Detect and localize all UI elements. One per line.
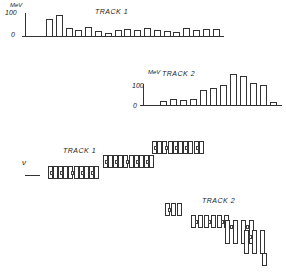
- detector-cell: [225, 220, 230, 244]
- detector-cell: [260, 230, 265, 254]
- histogram-bar: [85, 27, 92, 36]
- histogram-bar: [56, 15, 63, 36]
- histogram-bar: [105, 33, 112, 36]
- histogram-bar: [160, 101, 167, 105]
- detector-hit: [196, 146, 199, 150]
- histogram-bar: [95, 31, 102, 36]
- histogram-bar: [183, 28, 190, 36]
- histogram-bar: [260, 85, 267, 105]
- histogram-bar: [210, 88, 217, 105]
- detector-hit: [136, 160, 139, 164]
- detector-hit: [91, 171, 94, 175]
- track1-tick-0: 0: [11, 31, 15, 38]
- detector-hit: [246, 225, 249, 229]
- detector-cell: [149, 155, 154, 168]
- detector-hit: [71, 171, 74, 175]
- detector-cell: [244, 230, 249, 254]
- detector-hit: [208, 220, 211, 224]
- histogram-bar: [144, 28, 151, 36]
- track2-y-axis: [143, 84, 144, 106]
- histogram-bar: [66, 28, 73, 36]
- detector-hit: [165, 146, 168, 150]
- detector-cell: [177, 203, 182, 216]
- detector-hit: [146, 160, 149, 164]
- histogram-bar: [240, 76, 247, 105]
- detector-hit: [50, 171, 53, 175]
- detector-cell: [198, 215, 203, 228]
- detector-hit: [105, 160, 108, 164]
- track1-cells-title: TRACK 1: [63, 147, 96, 154]
- histogram-bar: [200, 90, 207, 105]
- detector-cell: [171, 203, 176, 216]
- histogram-bar: [134, 30, 141, 36]
- detector-hit: [126, 160, 129, 164]
- histogram-bar: [170, 99, 177, 105]
- detector-hit: [249, 235, 252, 239]
- histogram-bar: [124, 29, 131, 36]
- detector-hit: [185, 146, 188, 150]
- histogram-bar: [115, 30, 122, 36]
- detector-hit: [230, 225, 233, 229]
- track1-unit-label: MeV: [10, 2, 22, 8]
- histogram-bar: [164, 31, 171, 36]
- detector-hit: [115, 160, 118, 164]
- beam-label: ν: [22, 158, 26, 167]
- track1-title: TRACK 1: [95, 8, 128, 15]
- histogram-bar: [193, 30, 200, 36]
- detector-hit: [154, 146, 157, 150]
- detector-hit: [221, 220, 224, 224]
- track2-tick-100: 100: [132, 82, 144, 89]
- track2-unit-label: MeV: [148, 69, 160, 75]
- histogram-bar: [220, 85, 227, 105]
- detector-cell: [211, 215, 216, 228]
- track2-tick-0: 0: [133, 102, 137, 109]
- detector-cell: [94, 166, 99, 179]
- histogram-bar: [75, 30, 82, 36]
- histogram-bar: [190, 99, 197, 105]
- track2-x-axis: [140, 105, 282, 106]
- histogram-bar: [270, 102, 277, 105]
- detector-hit: [60, 171, 63, 175]
- track1-x-axis: [22, 36, 224, 37]
- detector-hit: [195, 220, 198, 224]
- beam-arrow-icon: [25, 175, 40, 176]
- histogram-bar: [213, 29, 220, 36]
- histogram-bar: [180, 100, 187, 105]
- track1-tick-100: 100: [5, 9, 17, 16]
- detector-hit: [81, 171, 84, 175]
- detector-hit: [175, 146, 178, 150]
- track1-y-axis: [25, 13, 26, 36]
- histogram-bar: [46, 19, 53, 36]
- detector-hit: [168, 208, 171, 212]
- histogram-bar: [250, 83, 257, 105]
- detector-cell: [252, 230, 257, 254]
- detector-cell: [262, 253, 267, 266]
- histogram-bar: [154, 30, 161, 36]
- detector-cell: [233, 220, 238, 244]
- histogram-bar: [230, 74, 237, 105]
- histogram-bar: [173, 32, 180, 36]
- histogram-bar: [203, 29, 210, 36]
- detector-cell: [199, 141, 204, 154]
- track2-title: TRACK 2: [162, 70, 195, 77]
- track2-cells-title: TRACK 2: [202, 197, 235, 204]
